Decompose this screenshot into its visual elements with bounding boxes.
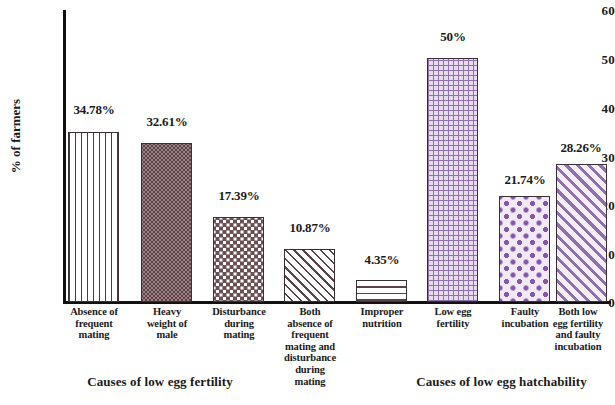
bar-value-7: 21.74% — [489, 172, 561, 188]
cat-label-8-line-3: and faulty — [541, 329, 615, 341]
cat-label-6-line-2: fertility — [415, 318, 491, 330]
bar-chart: % of farmers 60 50 40 30 20 10 0 34.78% … — [0, 0, 615, 405]
bar-value-4: 10.87% — [274, 220, 346, 236]
cat-label-4-line-4: mating and — [271, 341, 349, 353]
cat-label-2-line-3: male — [129, 329, 205, 341]
cat-label-4-line-3: frequent — [271, 329, 349, 341]
cat-label-3-line-3: mating — [200, 329, 278, 341]
cat-label-8-line-1: Both low — [541, 306, 615, 318]
bar-absence-of-frequent-mating — [68, 132, 119, 302]
bar-value-6: 50% — [417, 29, 489, 45]
cat-label-1-line-3: mating — [56, 329, 132, 341]
cat-label-6-line-1: Low egg — [415, 306, 491, 318]
cat-label-4-line-5: disturbance — [271, 352, 349, 364]
cat-label-3-line-2: during — [200, 318, 278, 330]
bar-value-3: 17.39% — [203, 188, 275, 204]
cat-label-6: Low egg fertility — [415, 306, 491, 329]
bar-value-2: 32.61% — [131, 114, 203, 130]
cat-label-4-line-1: Both — [271, 306, 349, 318]
bar-both-low-fertility-and-faulty-incubation — [556, 164, 607, 302]
cat-label-1: Absence of frequent mating — [56, 306, 132, 341]
bar-value-8: 28.26% — [545, 140, 615, 156]
cat-label-1-line-2: frequent — [56, 318, 132, 330]
bar-value-1: 34.78% — [58, 102, 130, 118]
cat-label-1-line-1: Absence of — [56, 306, 132, 318]
cat-label-2-line-1: Heavy — [129, 306, 205, 318]
cat-label-5-line-2: nutrition — [344, 318, 420, 330]
cat-label-5: Improper nutrition — [344, 306, 420, 329]
bar-disturbance-during-mating — [213, 217, 264, 302]
cat-label-4-line-2: absence of — [271, 318, 349, 330]
cat-label-8-line-4: incubation — [541, 341, 615, 353]
group-label-low-egg-fertility: Causes of low egg fertility — [20, 374, 300, 390]
cat-label-2: Heavy weight of male — [129, 306, 205, 341]
bars-layer — [0, 0, 615, 302]
group-label-low-egg-hatchability: Causes of low egg hatchability — [388, 374, 615, 390]
cat-label-3-line-1: Disturbance — [200, 306, 278, 318]
cat-label-8-line-2: egg fertility — [541, 318, 615, 330]
cat-label-5-line-1: Improper — [344, 306, 420, 318]
bar-faulty-incubation — [499, 196, 550, 302]
bar-low-egg-fertility — [427, 58, 478, 302]
bar-improper-nutrition — [356, 280, 407, 302]
bar-both-absence-and-disturbance — [284, 249, 335, 302]
bar-heavy-weight-of-male — [141, 143, 192, 302]
bar-value-5: 4.35% — [346, 252, 418, 268]
cat-label-8: Both low egg fertility and faulty incuba… — [541, 306, 615, 352]
cat-label-2-line-2: weight of — [129, 318, 205, 330]
cat-label-3: Disturbance during mating — [200, 306, 278, 341]
